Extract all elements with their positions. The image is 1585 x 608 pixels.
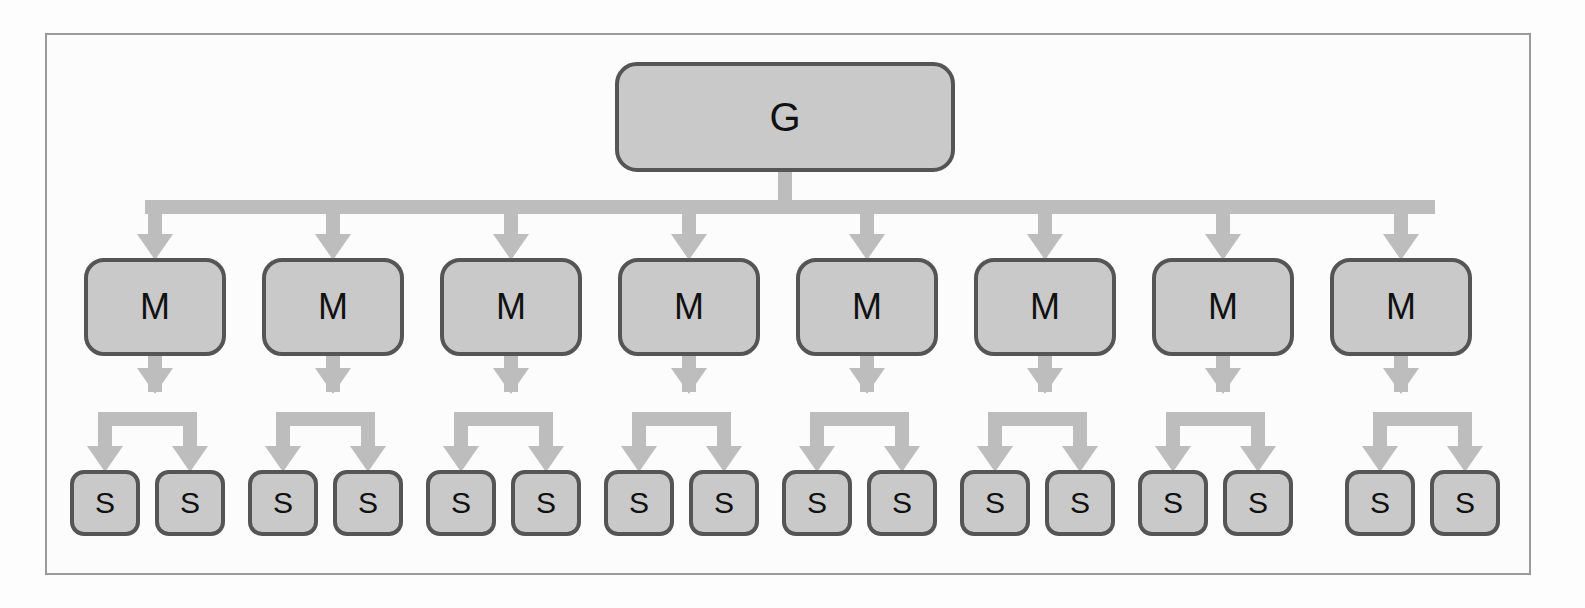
node-s-label: S xyxy=(807,488,827,518)
node-s-label: S xyxy=(451,488,471,518)
node-s-2[interactable]: S xyxy=(155,470,225,536)
node-m-label: M xyxy=(140,289,170,325)
node-s-label: S xyxy=(536,488,556,518)
node-m-5[interactable]: M xyxy=(796,258,938,356)
node-m-4[interactable]: M xyxy=(618,258,760,356)
node-g-label: G xyxy=(769,97,800,137)
node-s-label: S xyxy=(714,488,734,518)
node-s-1[interactable]: S xyxy=(70,470,140,536)
node-s-4[interactable]: S xyxy=(333,470,403,536)
node-s-label: S xyxy=(1163,488,1183,518)
node-s-9[interactable]: S xyxy=(782,470,852,536)
node-s-label: S xyxy=(985,488,1005,518)
node-m-2[interactable]: M xyxy=(262,258,404,356)
node-s-10[interactable]: S xyxy=(867,470,937,536)
node-s-6[interactable]: S xyxy=(511,470,581,536)
node-s-12[interactable]: S xyxy=(1045,470,1115,536)
node-s-label: S xyxy=(1455,488,1475,518)
node-m-label: M xyxy=(1030,289,1060,325)
node-s-13[interactable]: S xyxy=(1138,470,1208,536)
node-s-label: S xyxy=(629,488,649,518)
node-s-15[interactable]: S xyxy=(1345,470,1415,536)
node-m-7[interactable]: M xyxy=(1152,258,1294,356)
node-g-root[interactable]: G xyxy=(615,62,955,172)
node-s-label: S xyxy=(1070,488,1090,518)
node-s-14[interactable]: S xyxy=(1223,470,1293,536)
node-m-3[interactable]: M xyxy=(440,258,582,356)
node-s-5[interactable]: S xyxy=(426,470,496,536)
node-m-label: M xyxy=(1386,289,1416,325)
node-m-8[interactable]: M xyxy=(1330,258,1472,356)
node-m-label: M xyxy=(852,289,882,325)
node-s-16[interactable]: S xyxy=(1430,470,1500,536)
node-s-label: S xyxy=(358,488,378,518)
node-s-8[interactable]: S xyxy=(689,470,759,536)
node-m-label: M xyxy=(1208,289,1238,325)
node-m-label: M xyxy=(318,289,348,325)
node-m-6[interactable]: M xyxy=(974,258,1116,356)
node-s-label: S xyxy=(180,488,200,518)
node-s-3[interactable]: S xyxy=(248,470,318,536)
node-m-label: M xyxy=(674,289,704,325)
node-s-label: S xyxy=(892,488,912,518)
node-s-label: S xyxy=(273,488,293,518)
node-m-1[interactable]: M xyxy=(84,258,226,356)
node-m-label: M xyxy=(496,289,526,325)
node-s-11[interactable]: S xyxy=(960,470,1030,536)
node-s-label: S xyxy=(1370,488,1390,518)
node-s-7[interactable]: S xyxy=(604,470,674,536)
node-s-label: S xyxy=(95,488,115,518)
node-s-label: S xyxy=(1248,488,1268,518)
